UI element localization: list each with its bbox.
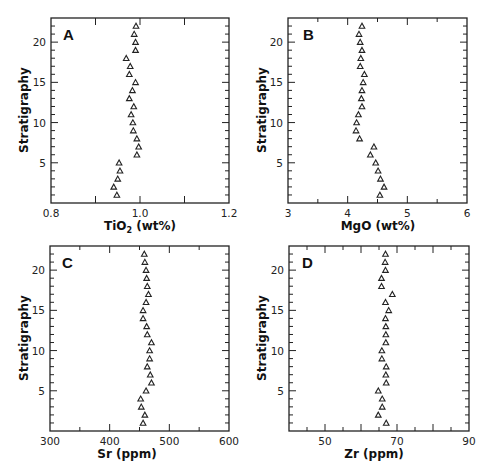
data-series xyxy=(111,23,142,197)
triangle-marker-icon xyxy=(140,316,146,321)
panel-label: D xyxy=(302,254,313,271)
triangle-marker-icon xyxy=(128,112,134,117)
triangle-marker-icon xyxy=(371,144,377,149)
triangle-marker-icon xyxy=(133,23,139,28)
triangle-marker-icon xyxy=(383,380,389,385)
triangle-marker-icon xyxy=(383,364,389,369)
triangle-marker-icon xyxy=(383,300,389,305)
panel-b: B Stratigraphy MgO (wt%) 51015203456 xyxy=(255,18,471,233)
triangle-marker-icon xyxy=(143,300,149,305)
triangle-marker-icon xyxy=(147,372,153,377)
triangle-marker-icon xyxy=(379,404,385,409)
triangle-marker-icon xyxy=(356,112,362,117)
triangle-marker-icon xyxy=(382,259,388,264)
triangle-marker-icon xyxy=(142,412,148,417)
triangle-marker-icon xyxy=(131,128,137,133)
triangle-marker-icon xyxy=(379,356,385,361)
triangle-marker-icon xyxy=(362,72,368,77)
y-axis-title: Stratigraphy xyxy=(255,295,269,381)
triangle-marker-icon xyxy=(127,72,133,77)
triangle-marker-icon xyxy=(358,55,364,60)
triangle-marker-icon xyxy=(383,332,389,337)
triangle-marker-icon xyxy=(149,340,155,345)
x-tick-label: 300 xyxy=(40,435,60,447)
triangle-marker-icon xyxy=(143,267,149,272)
x-axis-title: MgO (wt%) xyxy=(341,219,416,233)
triangle-marker-icon xyxy=(373,160,379,165)
triangle-marker-icon xyxy=(383,340,389,345)
triangle-marker-icon xyxy=(379,348,385,353)
triangle-marker-icon xyxy=(127,63,133,68)
x-tick-label: 5 xyxy=(404,207,411,219)
triangle-marker-icon xyxy=(142,259,148,264)
triangle-marker-icon xyxy=(359,88,365,93)
triangle-marker-icon xyxy=(359,23,365,28)
y-tick-label: 15 xyxy=(33,76,46,88)
y-axis-title: Stratigraphy xyxy=(17,67,31,153)
triangle-marker-icon xyxy=(130,88,136,93)
triangle-marker-icon xyxy=(136,144,142,149)
triangle-marker-icon xyxy=(146,291,152,296)
triangle-marker-icon xyxy=(383,251,389,256)
y-tick-label: 20 xyxy=(33,36,46,48)
axes-frame xyxy=(288,18,467,203)
x-axis-title: Sr (ppm) xyxy=(97,447,156,461)
triangle-marker-icon xyxy=(123,55,129,60)
triangle-marker-icon xyxy=(140,420,146,425)
triangle-marker-icon xyxy=(379,283,385,288)
triangle-marker-icon xyxy=(143,388,149,393)
triangle-marker-icon xyxy=(117,168,123,173)
figure: A Stratigraphy TiO2 (wt%) 51015200.81.01… xyxy=(0,0,493,476)
plot-frame: 51015203456 xyxy=(270,18,471,219)
y-tick-label: 10 xyxy=(270,117,283,129)
panel-label: B xyxy=(303,26,314,43)
plot-frame: 5101520507090 xyxy=(271,246,476,447)
triangle-marker-icon xyxy=(138,396,144,401)
y-axis-title: Stratigraphy xyxy=(17,295,31,381)
triangle-marker-icon xyxy=(131,104,137,109)
triangle-marker-icon xyxy=(144,324,150,329)
y-tick-label: 10 xyxy=(271,345,284,357)
triangle-marker-icon xyxy=(381,184,387,189)
triangle-marker-icon xyxy=(383,372,389,377)
triangle-marker-icon xyxy=(138,404,144,409)
triangle-marker-icon xyxy=(390,291,396,296)
x-axis-title: TiO2 (wt%) xyxy=(104,219,176,235)
triangle-marker-icon xyxy=(359,47,365,52)
triangle-marker-icon xyxy=(383,267,389,272)
triangle-marker-icon xyxy=(147,356,153,361)
triangle-marker-icon xyxy=(144,283,150,288)
triangle-marker-icon xyxy=(133,39,139,44)
x-tick-label: 1.0 xyxy=(132,207,149,219)
data-series xyxy=(138,251,154,425)
panel-a: A Stratigraphy TiO2 (wt%) 51015200.81.01… xyxy=(17,18,237,235)
triangle-marker-icon xyxy=(357,63,363,68)
triangle-marker-icon xyxy=(116,160,122,165)
y-tick-label: 20 xyxy=(270,36,283,48)
triangle-marker-icon xyxy=(356,31,362,36)
triangle-marker-icon xyxy=(378,176,384,181)
triangle-marker-icon xyxy=(383,324,389,329)
x-tick-label: 4 xyxy=(344,207,351,219)
x-tick-label: 3 xyxy=(285,207,292,219)
y-tick-label: 5 xyxy=(277,385,284,397)
x-tick-label: 70 xyxy=(390,435,403,447)
panel-c: C Stratigraphy Sr (ppm) 5101520300400500… xyxy=(17,246,239,461)
data-series xyxy=(375,251,395,425)
axes-frame xyxy=(51,18,229,203)
y-tick-label: 15 xyxy=(271,304,284,316)
triangle-marker-icon xyxy=(131,31,137,36)
y-tick-label: 10 xyxy=(32,345,45,357)
panel-label: C xyxy=(62,254,73,271)
x-tick-label: 0.8 xyxy=(43,207,60,219)
triangle-marker-icon xyxy=(134,152,140,157)
triangle-marker-icon xyxy=(144,364,150,369)
y-tick-label: 5 xyxy=(38,385,45,397)
triangle-marker-icon xyxy=(353,128,359,133)
triangle-marker-icon xyxy=(127,96,133,101)
triangle-marker-icon xyxy=(379,275,385,280)
triangle-marker-icon xyxy=(115,176,121,181)
x-tick-label: 90 xyxy=(462,435,475,447)
x-tick-label: 1.2 xyxy=(221,207,238,219)
x-tick-label: 600 xyxy=(219,435,239,447)
